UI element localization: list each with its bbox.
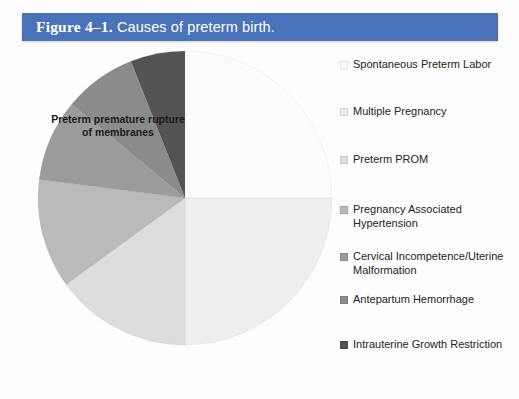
legend-color-swatch <box>340 296 348 304</box>
legend-item-label: Multiple Pregnancy <box>353 105 447 119</box>
legend-item: Cervical Incompetence/Uterine Malformati… <box>340 250 516 277</box>
legend-color-swatch <box>340 108 348 116</box>
legend-item-label: Antepartum Hemorrhage <box>353 293 474 307</box>
legend-item: Antepartum Hemorrhage <box>340 293 516 307</box>
legend-item: Multiple Pregnancy <box>340 105 516 119</box>
legend-color-swatch <box>340 253 348 261</box>
legend-item-label: Pregnancy Associated Hypertension <box>353 203 516 230</box>
legend-item: Pregnancy Associated Hypertension <box>340 203 516 230</box>
pie-chart <box>36 50 336 348</box>
pie-slice-group <box>38 51 332 345</box>
figure-title-banner: Figure 4–1. Causes of preterm birth. <box>22 13 498 41</box>
figure-container: Figure 4–1. Causes of preterm birth. Pre… <box>0 0 519 399</box>
pie-slice <box>185 198 332 345</box>
legend-item-label: Spontaneous Preterm Labor <box>353 58 491 72</box>
legend-color-swatch <box>340 156 348 164</box>
annotation-preterm-prom: Preterm premature rupture of membranes <box>48 113 188 138</box>
legend-item-label: Intrauterine Growth Restriction <box>353 338 502 352</box>
chart-legend: Spontaneous Preterm LaborMultiple Pregna… <box>340 55 516 355</box>
pie-chart-svg <box>36 50 336 348</box>
page-title: Figure 4–1. Causes of preterm birth. <box>22 18 275 36</box>
figure-title-text: Causes of preterm birth. <box>113 19 275 35</box>
legend-item: Spontaneous Preterm Labor <box>340 58 516 72</box>
legend-color-swatch <box>340 61 348 69</box>
legend-item: Preterm PROM <box>340 153 516 167</box>
legend-item-label: Preterm PROM <box>353 153 428 167</box>
legend-color-swatch <box>340 341 348 349</box>
figure-number-label: Figure 4–1. <box>36 18 113 35</box>
legend-item: Intrauterine Growth Restriction <box>340 338 516 352</box>
legend-color-swatch <box>340 206 348 214</box>
pie-slice <box>185 51 332 198</box>
legend-item-label: Cervical Incompetence/Uterine Malformati… <box>353 250 516 277</box>
